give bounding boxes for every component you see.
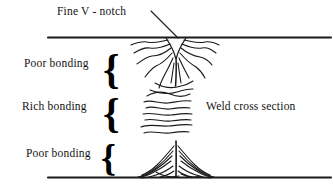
- brace-poor-bonding-top: {: [103, 48, 120, 90]
- wavy-line: [143, 113, 192, 115]
- flow-line: [178, 146, 210, 175]
- label-poor-bonding-top: Poor bonding: [24, 58, 89, 70]
- flow-line: [171, 63, 174, 83]
- flow-line: [134, 44, 170, 53]
- v-notch-root: [176, 57, 177, 86]
- top-flow-lines-left: [131, 40, 174, 88]
- label-fine-v-notch: Fine V - notch: [57, 6, 126, 18]
- wavy-line: [147, 92, 190, 96]
- wavy-line: [144, 132, 189, 134]
- label-rich-bonding: Rich bonding: [22, 101, 87, 113]
- wavy-line: [145, 119, 191, 121]
- diagram-canvas: [0, 0, 333, 195]
- brace-poor-bonding-bottom: {: [101, 139, 116, 177]
- top-flow-lines-right: [178, 40, 219, 83]
- flow-line: [142, 146, 174, 175]
- flow-line: [178, 63, 181, 83]
- leader-line-fine-v-notch: [151, 11, 178, 38]
- bottom-flow-lines-right: [178, 146, 214, 178]
- weld-cross-section-diagram: Fine V - notch Poor bonding Rich bonding…: [0, 0, 333, 195]
- v-notch-group: [166, 38, 186, 86]
- flow-line: [131, 40, 168, 45]
- flow-line: [181, 48, 212, 65]
- flow-line: [137, 48, 171, 64]
- label-poor-bonding-bottom: Poor bonding: [26, 148, 91, 160]
- bottom-flow-lines-left: [138, 146, 174, 178]
- flow-line: [184, 40, 219, 45]
- rich-bonding-flow-lines: [141, 92, 192, 133]
- wavy-line: [146, 107, 190, 109]
- brace-rich-bonding: {: [103, 92, 120, 134]
- label-weld-cross-section: Weld cross section: [206, 101, 296, 113]
- flow-line: [182, 44, 216, 53]
- wavy-line: [141, 125, 192, 127]
- wavy-line: [144, 101, 191, 103]
